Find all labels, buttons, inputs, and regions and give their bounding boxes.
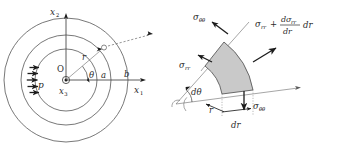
material-point-marker [102,45,107,50]
expr-plus-sign: + [270,19,277,29]
figure-container: x 2 x 1 O x 3 p r θ [0,0,338,149]
x1-axis-label-subscript: 1 [140,90,143,96]
expr-denominator: dr [283,27,293,36]
x3-axis-label: x [59,86,64,96]
inner-radius-label: a [101,70,106,80]
hoop-stress-bottom-subscript: θθ [259,106,266,112]
internal-pressure-label: p [38,80,44,90]
figure-svg: x 2 x 1 O x 3 p r θ [0,0,338,149]
expr-trailing-dr: dr [303,20,313,30]
dr-label: dr [231,120,241,130]
theta-angle-label: θ [89,70,94,80]
origin-label: O [57,64,64,74]
x2-axis-label: x [50,7,55,17]
outer-radius-label: b [124,69,129,79]
x1-axis-label: x [134,85,139,95]
x2-axis-label-subscript: 2 [56,12,59,18]
x3-axis-label-subscript: 3 [64,91,67,97]
hoop-stress-top-subscript: θθ [199,17,206,23]
expr-numerator-subscript: rr [291,19,296,25]
radial-stress-inner-subscript: rr [185,65,190,71]
dtheta-label: dθ [191,87,202,97]
expr-sigma-subscript: rr [261,24,266,30]
